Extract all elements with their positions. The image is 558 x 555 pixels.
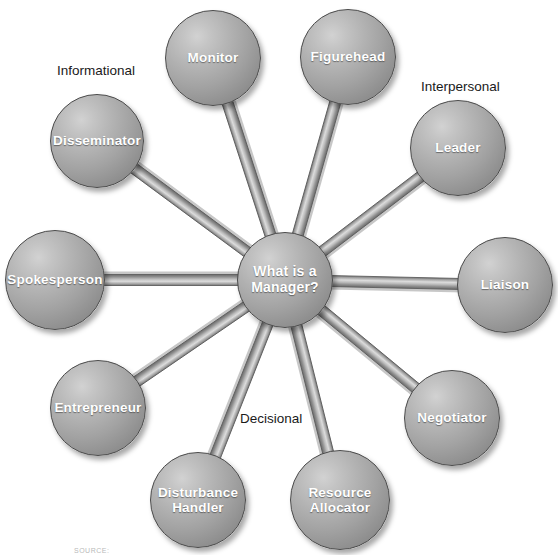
role-node-figurehead-label: Figurehead [308, 49, 389, 64]
category-label-decisional: Decisional [240, 411, 302, 426]
category-label-interpersonal: Interpersonal [421, 79, 500, 94]
managerial-roles-diagram: MonitorFigureheadLeaderLiaisonNegotiator… [0, 0, 558, 555]
role-node-disturbance-handler[interactable]: DisturbanceHandler [150, 452, 246, 548]
rod-monitor [221, 95, 280, 241]
role-node-monitor[interactable]: Monitor [165, 10, 261, 106]
role-node-leader[interactable]: Leader [410, 100, 506, 196]
rod-disseminator [127, 159, 257, 260]
role-node-negotiator[interactable]: Negotiator [404, 370, 500, 466]
center-node[interactable]: What is aManager? [237, 232, 333, 328]
source-credit: SOURCE: [74, 547, 109, 554]
rod-resource-allocator [287, 319, 335, 459]
role-node-negotiator-label: Negotiator [414, 410, 490, 425]
role-node-entrepreneur[interactable]: Entrepreneur [50, 360, 146, 456]
rod-negotiator [312, 303, 423, 398]
role-node-monitor-label: Monitor [185, 50, 242, 65]
role-node-liaison[interactable]: Liaison [457, 237, 553, 333]
role-node-disseminator[interactable]: Disseminator [50, 94, 144, 188]
rod-disturbance-handler [206, 316, 275, 463]
rod-spokesperson [99, 272, 243, 286]
rod-leader [315, 169, 430, 261]
role-node-figurehead[interactable]: Figurehead [300, 9, 396, 105]
rod-liaison [327, 275, 463, 292]
rod-figurehead [291, 96, 345, 242]
role-node-leader-label: Leader [432, 140, 483, 155]
role-node-disseminator-label: Disseminator [50, 133, 144, 148]
role-node-disturbance-handler-label: DisturbanceHandler [155, 485, 241, 515]
role-node-liaison-label: Liaison [478, 277, 533, 292]
role-node-resource-allocator[interactable]: ResourceAllocator [290, 450, 390, 550]
role-node-entrepreneur-label: Entrepreneur [51, 400, 144, 415]
rod-entrepreneur [128, 297, 254, 389]
center-node-label: What is aManager? [248, 264, 322, 295]
role-node-resource-allocator-label: ResourceAllocator [305, 485, 374, 515]
role-node-spokesperson-label: Spokesperson [4, 272, 105, 287]
category-label-informational: Informational [57, 63, 135, 78]
role-node-spokesperson[interactable]: Spokesperson [5, 230, 105, 330]
